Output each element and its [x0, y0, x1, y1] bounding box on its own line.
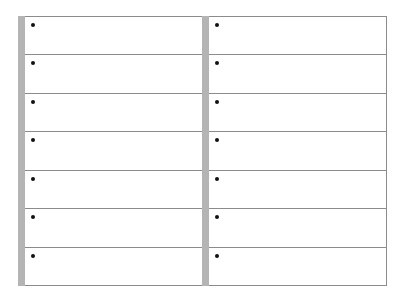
bullet-icon [31, 61, 35, 65]
label-row[interactable] [25, 248, 202, 285]
bullet-icon [31, 100, 35, 104]
label-row[interactable] [25, 171, 202, 209]
label-row[interactable] [25, 132, 202, 170]
bullet-icon [215, 138, 219, 142]
bullet-icon [31, 254, 35, 258]
label-row[interactable] [209, 17, 386, 55]
label-row[interactable] [209, 248, 386, 285]
label-rows [25, 16, 202, 286]
label-row[interactable] [25, 209, 202, 247]
column-margin-bar [202, 16, 209, 286]
label-column-right [202, 16, 387, 286]
label-row[interactable] [25, 55, 202, 93]
bullet-icon [215, 61, 219, 65]
bullet-icon [31, 23, 35, 27]
label-row[interactable] [209, 132, 386, 170]
bullet-icon [215, 215, 219, 219]
label-row[interactable] [25, 94, 202, 132]
label-column-left [18, 16, 202, 286]
label-row[interactable] [209, 171, 386, 209]
bullet-icon [31, 177, 35, 181]
bullet-icon [215, 177, 219, 181]
label-rows [209, 16, 387, 286]
bullet-icon [215, 23, 219, 27]
label-row[interactable] [25, 17, 202, 55]
bullet-icon [215, 254, 219, 258]
bullet-icon [31, 138, 35, 142]
column-margin-bar [18, 16, 25, 286]
label-row[interactable] [209, 55, 386, 93]
label-row[interactable] [209, 94, 386, 132]
bullet-icon [215, 100, 219, 104]
bullet-icon [31, 215, 35, 219]
label-row[interactable] [209, 209, 386, 247]
